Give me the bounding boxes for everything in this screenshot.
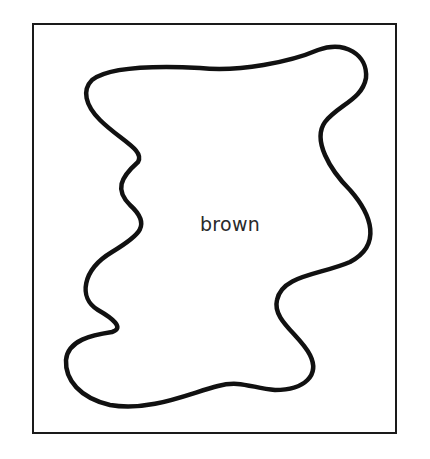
blob-label: brown bbox=[200, 213, 260, 235]
